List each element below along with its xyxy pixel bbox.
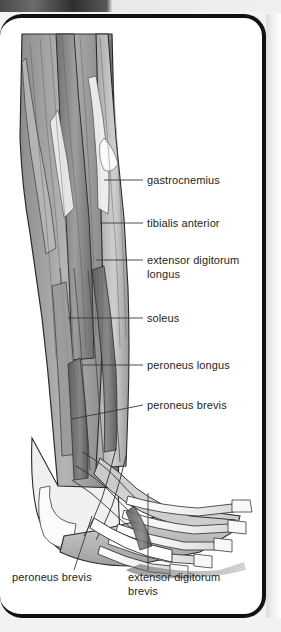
label-tibialis-anterior: tibialis anterior <box>147 217 220 231</box>
label-peroneus-brevis: peroneus brevis <box>147 399 227 413</box>
label-extensor-digitorum-brevis-line2: brevis <box>128 585 158 599</box>
label-gastrocnemius: gastrocnemius <box>147 174 220 188</box>
upper-leg-group <box>20 34 129 488</box>
page-top-strip <box>0 0 281 12</box>
page-right-shadow <box>266 14 281 618</box>
leg-anatomy-illustration <box>0 18 266 618</box>
anatomy-plate-card: gastrocnemius tibialis anterior extensor… <box>0 14 266 618</box>
label-extensor-digitorum-longus-line2: longus <box>147 268 180 282</box>
label-extensor-digitorum-longus: extensor digitorum <box>147 254 239 268</box>
label-soleus: soleus <box>147 312 179 326</box>
label-peroneus-longus: peroneus longus <box>147 359 230 373</box>
label-peroneus-brevis-foot: peroneus brevis <box>12 571 92 585</box>
label-extensor-digitorum-brevis: extensor digitorum <box>128 571 220 585</box>
